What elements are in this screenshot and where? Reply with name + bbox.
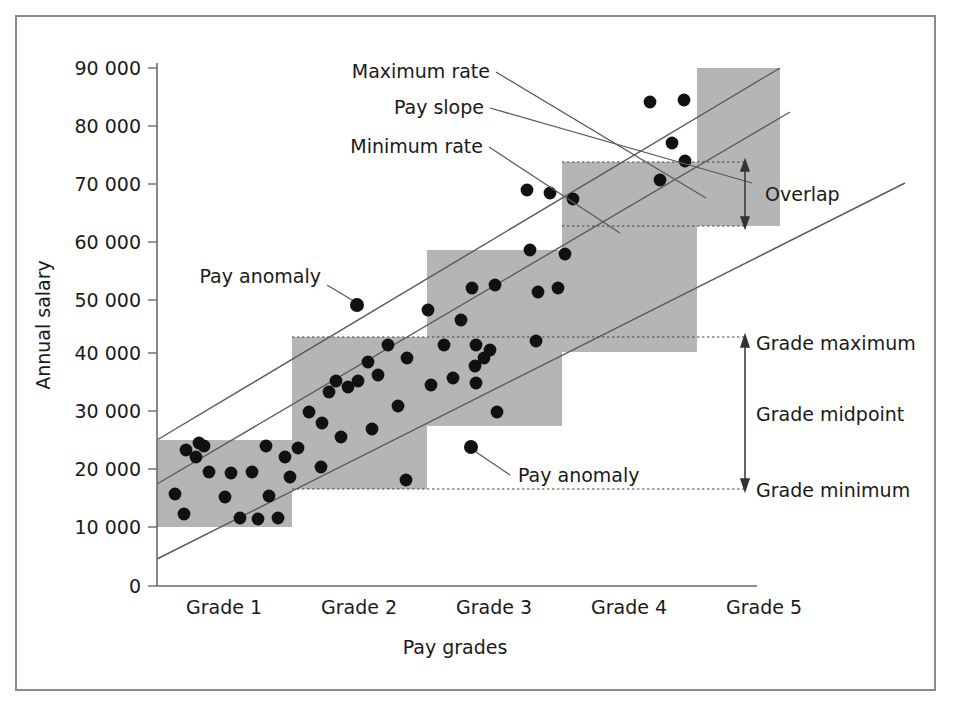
data-point xyxy=(362,356,375,369)
chart-stage: 90 000 80 000 70 000 60 000 50 000 40 00… xyxy=(0,0,953,709)
data-point xyxy=(252,513,265,526)
data-point xyxy=(559,248,572,261)
pay-anomaly-bottom-leader xyxy=(476,452,510,475)
data-point xyxy=(272,512,285,525)
y-tick-label: 70 000 xyxy=(75,173,141,195)
data-point xyxy=(678,94,691,107)
x-tick-label-group: Grade 1 Grade 2 Grade 3 Grade 4 Grade 5 xyxy=(186,596,802,618)
x-tick-label-grade-2: Grade 2 xyxy=(321,596,397,618)
grade-range-bracket xyxy=(741,335,749,491)
annotation-maximum-rate: Maximum rate xyxy=(352,60,490,82)
x-tick-label-grade-4: Grade 4 xyxy=(591,596,667,618)
data-point xyxy=(530,335,543,348)
data-point xyxy=(654,174,667,187)
data-point xyxy=(666,137,679,150)
y-tick-label: 40 000 xyxy=(75,342,141,364)
y-tick-label: 90 000 xyxy=(75,57,141,79)
y-tick-label-group: 90 000 80 000 70 000 60 000 50 000 40 00… xyxy=(75,57,141,597)
data-point xyxy=(178,508,191,521)
data-point xyxy=(279,451,292,464)
data-point xyxy=(234,512,247,525)
data-point xyxy=(447,372,460,385)
data-point xyxy=(260,440,273,453)
data-point xyxy=(316,417,329,430)
y-tick-label: 30 000 xyxy=(75,400,141,422)
grade-band-1 xyxy=(157,440,292,527)
data-point xyxy=(552,282,565,295)
annotation-pay-anomaly-top: Pay anomaly xyxy=(199,265,321,287)
grade-band-3 xyxy=(427,250,562,426)
data-point xyxy=(644,96,657,109)
x-tick-label-grade-1: Grade 1 xyxy=(186,596,262,618)
data-point xyxy=(470,339,483,352)
data-point xyxy=(263,490,276,503)
data-point xyxy=(544,187,557,200)
data-point xyxy=(352,375,365,388)
data-point xyxy=(303,406,316,419)
data-point xyxy=(524,244,537,257)
grade-band-4 xyxy=(562,162,697,352)
data-point xyxy=(521,184,534,197)
data-point xyxy=(219,491,232,504)
data-point xyxy=(203,466,216,479)
data-point xyxy=(400,474,413,487)
data-point xyxy=(422,304,435,317)
data-point xyxy=(169,488,182,501)
grade-midpoint-label: Grade midpoint xyxy=(756,403,904,425)
data-point xyxy=(438,339,451,352)
data-point xyxy=(491,406,504,419)
data-point xyxy=(464,440,478,454)
data-point xyxy=(330,375,343,388)
x-axis-title: Pay grades xyxy=(403,636,508,658)
data-point xyxy=(225,467,238,480)
data-point xyxy=(323,386,336,399)
data-point xyxy=(315,461,328,474)
data-point xyxy=(425,379,438,392)
data-point xyxy=(470,377,483,390)
y-tick-label: 80 000 xyxy=(75,115,141,137)
y-tick-label: 60 000 xyxy=(75,231,141,253)
y-axis-ticks xyxy=(148,68,157,586)
data-point xyxy=(382,339,395,352)
pay-structure-chart: 90 000 80 000 70 000 60 000 50 000 40 00… xyxy=(0,0,953,709)
data-point xyxy=(455,314,468,327)
data-point xyxy=(532,286,545,299)
data-point xyxy=(246,466,259,479)
x-tick-label-grade-3: Grade 3 xyxy=(456,596,532,618)
data-point xyxy=(350,298,364,312)
data-point xyxy=(489,279,502,292)
y-tick-label: 50 000 xyxy=(75,289,141,311)
data-point xyxy=(366,423,379,436)
grade-maximum-label: Grade maximum xyxy=(756,332,916,354)
data-point xyxy=(198,440,211,453)
data-point xyxy=(284,471,297,484)
data-point xyxy=(401,352,414,365)
data-point xyxy=(190,451,203,464)
data-point xyxy=(335,431,348,444)
data-point xyxy=(484,344,497,357)
data-point xyxy=(372,369,385,382)
overlap-label: Overlap xyxy=(765,183,840,205)
data-point xyxy=(466,282,479,295)
y-axis-title: Annual salary xyxy=(32,260,54,390)
y-tick-label: 0 xyxy=(129,575,141,597)
annotation-pay-anomaly-bottom: Pay anomaly xyxy=(518,464,640,486)
grade-minimum-label: Grade minimum xyxy=(756,479,910,501)
minimum-rate-line xyxy=(157,183,905,559)
annotation-minimum-rate: Minimum rate xyxy=(350,135,483,157)
y-tick-label: 10 000 xyxy=(75,516,141,538)
data-point xyxy=(292,442,305,455)
x-tick-label-grade-5: Grade 5 xyxy=(726,596,802,618)
data-point xyxy=(392,400,405,413)
pay-anomaly-top-leader xyxy=(327,285,352,300)
annotation-pay-slope: Pay slope xyxy=(394,96,484,118)
y-tick-label: 20 000 xyxy=(75,458,141,480)
